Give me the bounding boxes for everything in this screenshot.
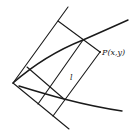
point-p-label: P(x,y): [101, 48, 125, 57]
length-label: l: [70, 73, 73, 82]
lower-curve: [19, 86, 122, 111]
upper-axis-line: [13, 7, 68, 83]
geometry-diagram: P(x,y) l: [0, 0, 133, 136]
point-p-marker: [99, 51, 101, 53]
top-cross-line: [58, 21, 100, 52]
